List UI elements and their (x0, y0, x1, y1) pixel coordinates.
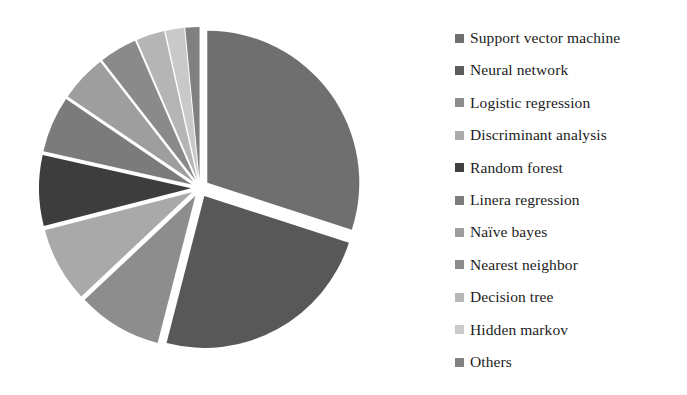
legend-item[interactable]: Naïve bayes (455, 216, 687, 248)
legend-item-label: Support vector machine (470, 22, 620, 54)
legend-item-label: Hidden markov (470, 314, 568, 346)
legend-item[interactable]: Nearest neighbor (455, 249, 687, 281)
chart-legend: Support vector machineNeural networkLogi… (455, 22, 687, 382)
legend-item-label: Logistic regression (470, 87, 590, 119)
legend-item-label: Neural network (470, 54, 568, 86)
legend-item[interactable]: Random forest (455, 152, 687, 184)
pie-slice[interactable] (207, 31, 359, 230)
pie-chart-plot-area (0, 0, 400, 395)
legend-swatch-icon (455, 260, 464, 269)
pie-chart-svg (0, 0, 400, 395)
pie-slice-group (39, 27, 359, 348)
legend-item[interactable]: Linera regression (455, 184, 687, 216)
legend-item-label: Naïve bayes (470, 216, 547, 248)
legend-swatch-icon (455, 358, 464, 367)
legend-swatch-icon (455, 196, 464, 205)
legend-swatch-icon (455, 66, 464, 75)
legend-item[interactable]: Hidden markov (455, 314, 687, 346)
pie-chart-figure: Support vector machineNeural networkLogi… (0, 0, 687, 395)
legend-item-label: Random forest (470, 152, 563, 184)
legend-item-label: Nearest neighbor (470, 249, 578, 281)
legend-item[interactable]: Logistic regression (455, 87, 687, 119)
legend-item[interactable]: Support vector machine (455, 22, 687, 54)
legend-swatch-icon (455, 325, 464, 334)
legend-item-label: Decision tree (470, 281, 554, 313)
legend-swatch-icon (455, 228, 464, 237)
legend-item[interactable]: Neural network (455, 54, 687, 86)
legend-item[interactable]: Decision tree (455, 281, 687, 313)
legend-swatch-icon (455, 34, 464, 43)
legend-item-label: Discriminant analysis (470, 119, 607, 151)
legend-swatch-icon (455, 98, 464, 107)
legend-item-label: Others (470, 346, 512, 378)
legend-swatch-icon (455, 293, 464, 302)
legend-item[interactable]: Others (455, 346, 687, 378)
legend-item[interactable]: Discriminant analysis (455, 119, 687, 151)
legend-swatch-icon (455, 131, 464, 140)
legend-swatch-icon (455, 163, 464, 172)
legend-item-label: Linera regression (470, 184, 580, 216)
